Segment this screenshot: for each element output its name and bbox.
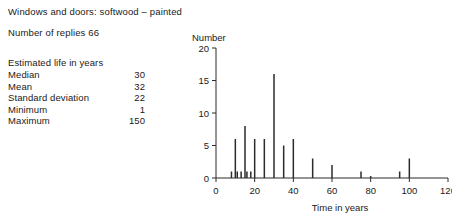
y-tick-label: 15 (198, 75, 209, 86)
stat-row: Mean32 (8, 81, 145, 93)
y-tick-label: 10 (198, 108, 209, 119)
x-axis-label: Time in years (312, 202, 369, 213)
stat-label: Standard deviation (8, 92, 99, 104)
statistics-heading: Estimated life in years (8, 57, 145, 68)
x-tick-label: 40 (288, 185, 299, 196)
stat-value: 32 (99, 81, 145, 93)
x-tick-label: 60 (327, 185, 338, 196)
page-title: Windows and doors: softwood – painted (8, 6, 182, 17)
y-tick-label: 20 (198, 43, 209, 54)
stat-value: 22 (99, 92, 145, 104)
stat-row: Maximum150 (8, 115, 145, 127)
x-tick-label: 80 (365, 185, 376, 196)
spike-chart: Number05101520020406080100120Time in yea… (186, 28, 452, 213)
replies-count: Number of replies 66 (8, 27, 99, 38)
figure-panel: Windows and doors: softwood – painted Nu… (0, 0, 456, 219)
stat-label: Minimum (8, 104, 99, 116)
x-tick-label: 100 (401, 185, 417, 196)
stat-row: Median30 (8, 69, 145, 81)
x-tick-label: 20 (249, 185, 260, 196)
y-axis-label: Number (192, 32, 226, 43)
statistics-block: Estimated life in years Median30Mean32St… (8, 57, 145, 127)
statistics-table: Median30Mean32Standard deviation22Minimu… (8, 69, 145, 127)
stat-value: 30 (99, 69, 145, 81)
stat-value: 1 (99, 104, 145, 116)
stat-label: Mean (8, 81, 99, 93)
chart-canvas: Number05101520020406080100120Time in yea… (186, 28, 452, 213)
y-tick-label: 5 (204, 140, 209, 151)
x-tick-label: 120 (440, 185, 452, 196)
stat-row: Minimum1 (8, 104, 145, 116)
stat-label: Maximum (8, 115, 99, 127)
y-tick-label: 0 (204, 173, 209, 184)
x-tick-label: 0 (213, 185, 218, 196)
stat-row: Standard deviation22 (8, 92, 145, 104)
stat-value: 150 (99, 115, 145, 127)
stat-label: Median (8, 69, 99, 81)
